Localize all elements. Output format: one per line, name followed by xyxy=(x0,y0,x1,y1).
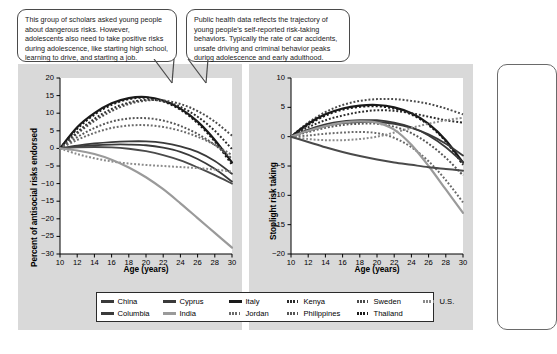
y-tick-label: −10 xyxy=(32,180,54,188)
legend-label: India xyxy=(180,310,196,318)
x-tick-label: 30 xyxy=(456,259,470,267)
x-tick-label: 28 xyxy=(208,259,222,267)
legend-label: Sweden xyxy=(374,298,401,306)
y-tick-label: −25 xyxy=(32,232,54,240)
y-tick-label: −5 xyxy=(263,162,285,170)
x-tick-label: 10 xyxy=(53,259,67,267)
legend-label: Kenya xyxy=(304,298,326,306)
legend-swatch-icon xyxy=(357,300,370,303)
legend-item-us[interactable]: U.S. xyxy=(423,296,454,308)
y-tick-label: −15 xyxy=(32,197,54,205)
legend-item-india[interactable]: India xyxy=(163,308,196,320)
callout-public-health-note: Public health data reflects the trajecto… xyxy=(186,9,350,62)
legend-row: ChinaCyprusItalyKenyaSwedenU.S. xyxy=(101,296,429,308)
x-tick-label: 24 xyxy=(173,259,187,267)
y-tick-label: 0 xyxy=(263,133,285,141)
legend-label: Italy xyxy=(246,298,260,306)
x-tick-label: 18 xyxy=(353,259,367,267)
legend-label: Thailand xyxy=(374,310,403,318)
y-tick-label: 5 xyxy=(32,127,54,135)
y-tick-label: −30 xyxy=(32,250,54,258)
y-tick-label: 20 xyxy=(32,74,54,82)
chart-right-svg xyxy=(255,70,467,280)
legend-item-cyprus[interactable]: Cyprus xyxy=(163,296,204,308)
legend-label: U.S. xyxy=(440,298,455,306)
chart-antisocial-risks: Percent of antisocial risks endorsed Age… xyxy=(24,70,236,280)
legend-item-jordan[interactable]: Jordan xyxy=(229,308,269,320)
legend-swatch-icon xyxy=(101,300,114,303)
x-tick-label: 14 xyxy=(318,259,332,267)
legend-swatch-icon xyxy=(357,312,370,315)
x-tick-label: 12 xyxy=(301,259,315,267)
y-tick-label: 10 xyxy=(263,74,285,82)
legend-item-kenya[interactable]: Kenya xyxy=(287,296,325,308)
legend-swatch-icon xyxy=(287,300,300,303)
x-tick-label: 16 xyxy=(336,259,350,267)
legend-label: China xyxy=(118,298,138,306)
x-tick-label: 28 xyxy=(439,259,453,267)
callout-left-text: This group of scholars asked young peopl… xyxy=(25,15,169,63)
legend-swatch-icon xyxy=(163,312,176,315)
x-tick-label: 18 xyxy=(122,259,136,267)
chart-legend: ChinaCyprusItalyKenyaSwedenU.S.ColumbiaI… xyxy=(96,292,434,322)
x-tick-label: 20 xyxy=(370,259,384,267)
x-tick-label: 26 xyxy=(191,259,205,267)
legend-item-china[interactable]: China xyxy=(101,296,137,308)
y-tick-label: −20 xyxy=(32,215,54,223)
callout-right-text: Public health data reflects the trajecto… xyxy=(194,15,342,63)
x-tick-label: 26 xyxy=(422,259,436,267)
side-note-panel xyxy=(497,64,557,330)
legend-row: ColumbiaIndiaJordanPhilippinesThailand xyxy=(101,308,429,320)
callout-right-tail xyxy=(186,59,216,85)
legend-item-italy[interactable]: Italy xyxy=(229,296,259,308)
y-tick-label: 10 xyxy=(32,109,54,117)
callout-left-tail xyxy=(152,59,182,85)
legend-swatch-icon xyxy=(423,300,436,303)
legend-swatch-icon xyxy=(229,312,242,315)
x-tick-label: 22 xyxy=(387,259,401,267)
x-tick-label: 12 xyxy=(70,259,84,267)
legend-swatch-icon xyxy=(101,312,114,315)
callout-scholars-note: This group of scholars asked young peopl… xyxy=(17,9,177,62)
y-tick-label: −10 xyxy=(263,191,285,199)
legend-label: Columbia xyxy=(118,310,150,318)
legend-item-sweden[interactable]: Sweden xyxy=(357,296,401,308)
chart-stoplight-risk: Stoplight risk taking Age (years) 1050−5… xyxy=(255,70,467,280)
legend-label: Philippines xyxy=(304,310,341,318)
y-tick-label: −20 xyxy=(263,250,285,258)
legend-swatch-icon xyxy=(229,300,242,303)
chart-left-svg xyxy=(24,70,236,280)
x-tick-label: 22 xyxy=(156,259,170,267)
x-tick-label: 14 xyxy=(87,259,101,267)
y-tick-label: 5 xyxy=(263,103,285,111)
y-tick-label: 15 xyxy=(32,92,54,100)
x-tick-label: 24 xyxy=(404,259,418,267)
legend-label: Jordan xyxy=(246,310,269,318)
legend-item-philippines[interactable]: Philippines xyxy=(287,308,340,320)
x-tick-label: 16 xyxy=(105,259,119,267)
x-tick-label: 20 xyxy=(139,259,153,267)
y-tick-label: −5 xyxy=(32,162,54,170)
legend-swatch-icon xyxy=(163,300,176,303)
x-tick-label: 10 xyxy=(284,259,298,267)
legend-swatch-icon xyxy=(287,312,300,315)
legend-item-columbia[interactable]: Columbia xyxy=(101,308,150,320)
legend-label: Cyprus xyxy=(180,298,204,306)
x-tick-label: 30 xyxy=(225,259,239,267)
y-tick-label: 0 xyxy=(32,144,54,152)
y-tick-label: −15 xyxy=(263,221,285,229)
legend-item-thailand[interactable]: Thailand xyxy=(357,308,403,320)
